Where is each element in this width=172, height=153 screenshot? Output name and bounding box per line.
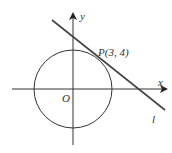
point-label: P(3, 4) [97, 46, 129, 59]
y-axis-label: y [79, 10, 85, 22]
origin-label: O [62, 92, 70, 104]
line-label: l [152, 113, 155, 125]
coordinate-diagram: y P(3, 4) x O l [0, 0, 172, 153]
x-axis-label: x [157, 76, 163, 88]
